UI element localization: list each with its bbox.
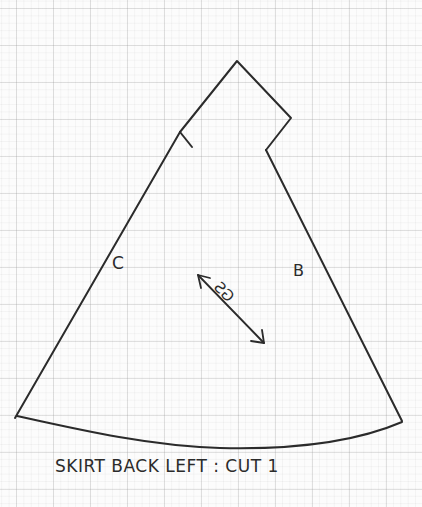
pattern-title: SKIRT BACK LEFT : CUT 1 <box>55 456 279 476</box>
pattern-drawing: GS C B SKIRT BACK LEFT : CUT 1 <box>0 0 422 507</box>
waist-tab <box>180 61 291 150</box>
notch-mark <box>180 132 192 147</box>
left-seam-c <box>15 132 180 418</box>
pattern-outline <box>15 61 402 448</box>
right-seam-b <box>266 150 402 421</box>
grainline-label: GS <box>210 278 238 306</box>
hem-curve <box>17 416 402 448</box>
seam-label-c: C <box>112 253 124 273</box>
seam-label-b: B <box>293 261 304 280</box>
